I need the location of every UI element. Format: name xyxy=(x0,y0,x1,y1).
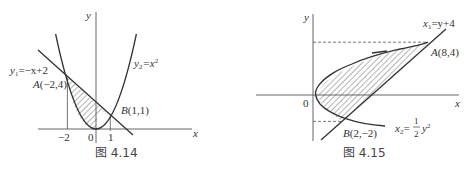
parabola-equation-label: x2= 1 2 y2 xyxy=(394,116,431,139)
svg-text:y2: y2 xyxy=(421,122,431,134)
shaded-region xyxy=(67,78,110,129)
shaded-region xyxy=(317,42,428,121)
tick-0: 0 xyxy=(88,131,94,143)
figure-4-14: y x −2 0 1 y1=−x+2 y2=x2 A(−2,4) B(1,1) … xyxy=(9,9,198,160)
point-b-label: B(1,1) xyxy=(121,104,149,117)
figure-caption: 图 4.15 xyxy=(343,146,386,160)
line-equation-label: x1=y+4 xyxy=(422,17,455,31)
y-axis-label: y xyxy=(303,11,309,23)
tick-neg2: −2 xyxy=(58,131,70,143)
point-a-label: A(−2,4) xyxy=(32,78,67,91)
figure-caption: 图 4.14 xyxy=(95,146,138,160)
svg-text:x2=: x2= xyxy=(394,122,410,136)
y-axis-label: y xyxy=(85,9,91,21)
x-axis-label: x xyxy=(192,127,198,139)
point-a-label: A(8,4) xyxy=(430,46,459,59)
point-b-label: B(2,−2) xyxy=(343,127,377,140)
line-equation-label: y1=−x+2 xyxy=(9,64,48,78)
figure-4-15: y x 0 x1=y+4 A(8,4) B(2,−2) x2= 1 2 y2 图… xyxy=(256,11,460,160)
x-axis-label: x xyxy=(454,97,460,109)
tick-1: 1 xyxy=(108,131,114,143)
origin-label: 0 xyxy=(303,97,309,109)
parabola-equation-label: y2=x2 xyxy=(133,57,159,71)
figures-canvas: y x −2 0 1 y1=−x+2 y2=x2 A(−2,4) B(1,1) … xyxy=(0,0,471,173)
frac-denominator: 2 xyxy=(414,129,419,139)
frac-numerator: 1 xyxy=(414,116,419,126)
